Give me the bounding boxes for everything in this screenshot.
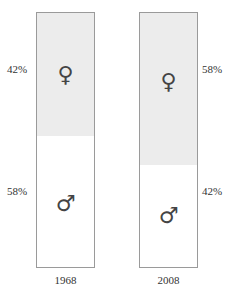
- female-pct-label-1968: 42%: [7, 63, 27, 75]
- year-label-2008: 2008: [139, 274, 198, 286]
- female-segment-2008: ♀: [140, 13, 197, 167]
- female-symbol-icon: ♀: [57, 64, 73, 86]
- male-segment-1968: ♂: [37, 136, 94, 267]
- male-symbol-icon: ♂: [56, 193, 76, 215]
- male-segment-2008: ♂: [140, 165, 197, 267]
- year-label-1968: 1968: [36, 274, 95, 286]
- bar-1968: ♀ ♂: [36, 12, 95, 268]
- female-symbol-icon: ♀: [160, 71, 176, 93]
- male-pct-label-1968: 58%: [7, 185, 27, 197]
- female-pct-label-2008: 58%: [202, 63, 222, 75]
- bar-2008: ♀ ♂: [139, 12, 198, 268]
- female-segment-1968: ♀: [37, 13, 94, 138]
- male-symbol-icon: ♂: [159, 205, 179, 227]
- male-pct-label-2008: 42%: [202, 185, 222, 197]
